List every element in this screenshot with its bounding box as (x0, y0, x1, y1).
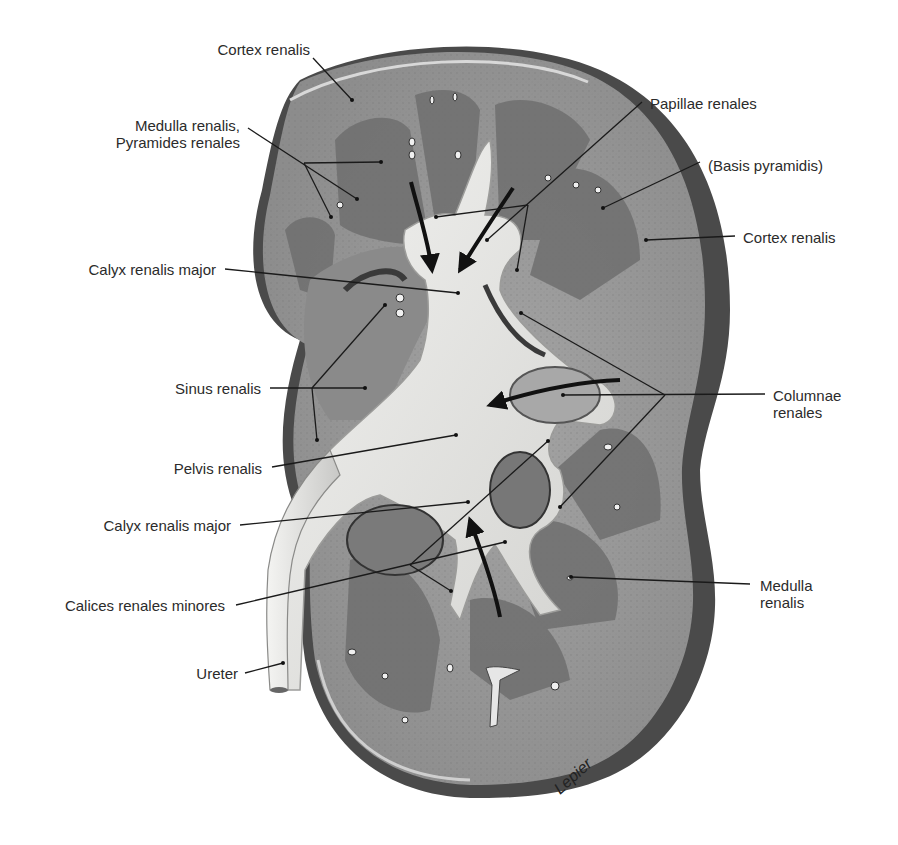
label-medulla-pyramides: Medulla renalis, Pyramides renales (116, 117, 240, 151)
label-cortex-renalis-top: Cortex renalis (217, 41, 310, 58)
label-sinus-renalis: Sinus renalis (175, 380, 261, 397)
label-medulla-right-line2: renalis (760, 594, 813, 611)
label-columnae-line2: renales (773, 404, 841, 421)
label-calyx-major-lower: Calyx renalis major (103, 517, 231, 534)
label-cortex-renalis-right: Cortex renalis (743, 229, 836, 246)
label-medulla-right-line1: Medulla (760, 577, 813, 594)
label-columnae-line1: Columnae (773, 387, 841, 404)
label-calices-minores: Calices renales minores (65, 597, 225, 614)
kidney-diagram: Lepier Cortex renalis Medulla renalis, P… (0, 0, 898, 845)
calyx-cup-lower-right (490, 452, 550, 528)
label-medulla-line2: Pyramides renales (116, 134, 240, 151)
label-columnae-renales: Columnae renales (773, 387, 841, 421)
label-ureter: Ureter (196, 665, 238, 682)
label-calyx-major-upper: Calyx renalis major (88, 261, 216, 278)
label-medulla-renalis-right: Medulla renalis (760, 577, 813, 611)
label-papillae-renales: Papillae renales (650, 95, 757, 112)
label-pelvis-renalis: Pelvis renalis (174, 460, 262, 477)
label-medulla-line1: Medulla renalis, (116, 117, 240, 134)
calyx-cup-lower-left (347, 505, 443, 575)
label-basis-pyramidis: (Basis pyramidis) (708, 157, 823, 174)
